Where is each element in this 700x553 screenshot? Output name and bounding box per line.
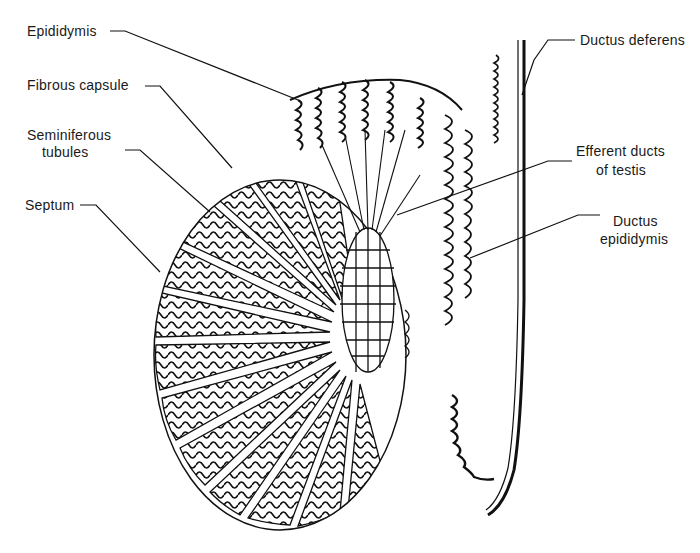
label-efferent-ducts-1: Efferent ducts bbox=[576, 143, 665, 160]
ductus-deferens bbox=[486, 40, 524, 515]
label-ductus-deferens: Ductus deferens bbox=[580, 32, 685, 49]
epididymis-head bbox=[290, 80, 462, 150]
testis-diagram: Epididymis Fibrous capsule Seminiferous … bbox=[0, 0, 700, 553]
label-fibrous-capsule: Fibrous capsule bbox=[27, 77, 129, 94]
label-ductus-epididymis-2: epididymis bbox=[600, 231, 668, 248]
label-septum: Septum bbox=[25, 197, 74, 214]
label-epididymis: Epididymis bbox=[27, 23, 97, 40]
ductus-epididymis bbox=[445, 115, 494, 480]
label-seminiferous-tubules-1: Seminiferous bbox=[27, 127, 111, 144]
rete-testis bbox=[340, 228, 396, 372]
label-efferent-ducts-2: of testis bbox=[596, 162, 646, 179]
label-ductus-epididymis-1: Ductus bbox=[613, 213, 658, 230]
label-seminiferous-tubules-2: tubules bbox=[42, 144, 89, 161]
